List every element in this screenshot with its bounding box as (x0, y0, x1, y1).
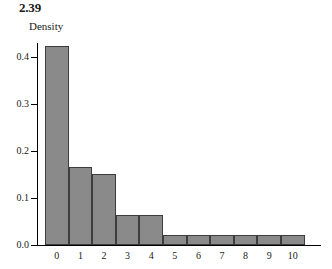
x-tick-label: 3 (116, 250, 140, 262)
x-tick-label: 2 (92, 250, 116, 262)
x-tick-label: 10 (281, 250, 305, 262)
bar (210, 235, 234, 245)
x-tick-label: 5 (163, 250, 187, 262)
bar (139, 215, 163, 245)
x-tick-label: 6 (187, 250, 211, 262)
bar (163, 235, 187, 245)
bar (281, 235, 305, 245)
x-tick-label: 9 (257, 250, 281, 262)
bar (257, 235, 281, 245)
x-tick-label: 7 (210, 250, 234, 262)
bar-series (0, 0, 332, 269)
x-tick-label: 4 (139, 250, 163, 262)
histogram-figure: 2.39 Density 0.00.10.20.30.4 01234567891… (0, 0, 332, 269)
x-tick-label: 1 (69, 250, 93, 262)
bar (234, 235, 258, 245)
bar (69, 167, 93, 245)
x-tick-label: 0 (45, 250, 69, 262)
bar (116, 215, 140, 245)
bar (45, 46, 69, 245)
x-tick-label: 8 (234, 250, 258, 262)
bar (92, 174, 116, 245)
plot-area: 0.00.10.20.30.4 012345678910 (0, 0, 332, 269)
bar (187, 235, 211, 245)
